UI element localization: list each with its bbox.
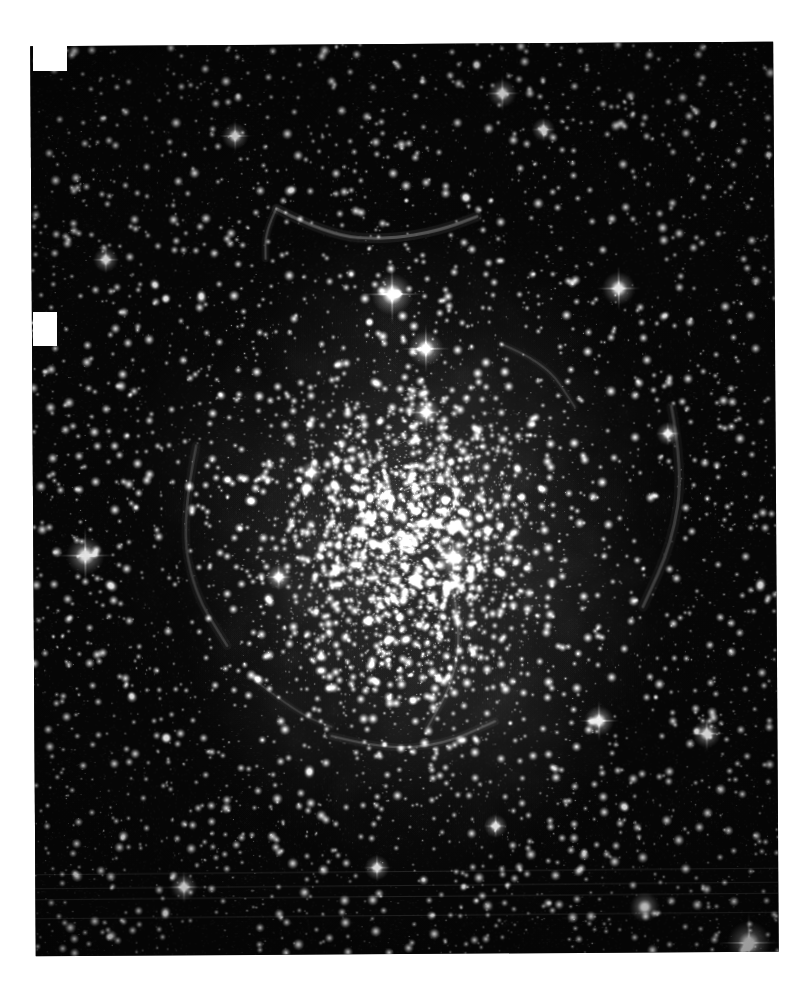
page-canvas <box>0 0 809 1001</box>
sky-canvas <box>30 42 779 957</box>
edge-chip-left <box>33 312 57 346</box>
corner-chip-top-left <box>33 44 67 71</box>
image-caption <box>0 0 1 1</box>
astronomical-image <box>30 42 779 957</box>
